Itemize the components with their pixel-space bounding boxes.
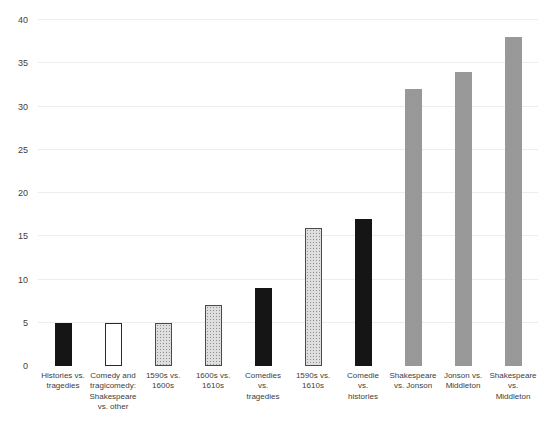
bar-column xyxy=(438,20,488,366)
bar-column xyxy=(388,20,438,366)
x-axis-labels: Histories vs. tragediesComedy and tragic… xyxy=(38,371,538,413)
y-tick-label: 15 xyxy=(18,232,28,241)
bar-column xyxy=(488,20,538,366)
bar-column xyxy=(238,20,288,366)
bar-chart: 4035302520151050 Histories vs. tragedies… xyxy=(0,0,544,425)
bar-dotted xyxy=(155,323,172,366)
y-tick-label: 25 xyxy=(18,145,28,154)
x-axis-category-label: Histories vs. tragedies xyxy=(38,371,88,392)
plot-area xyxy=(38,20,538,366)
x-axis-category-label: 1590s vs. 1610s xyxy=(288,371,338,392)
bar-column xyxy=(38,20,88,366)
x-axis-category-label: Shakespeare vs. Middleton xyxy=(488,371,538,402)
y-tick-label: 30 xyxy=(18,102,28,111)
bar-column xyxy=(138,20,188,366)
bar-gray xyxy=(505,37,522,366)
bar-gray xyxy=(455,72,472,366)
y-tick-label: 5 xyxy=(23,318,28,327)
bar-black xyxy=(255,288,272,366)
bar-dotted xyxy=(305,228,322,366)
bar-gray xyxy=(405,89,422,366)
y-tick-label: 20 xyxy=(18,189,28,198)
x-axis-category-label: 1590s vs. 1600s xyxy=(138,371,188,392)
x-axis-category-label: Comedies vs. tragedies xyxy=(238,371,288,402)
bar-column xyxy=(188,20,238,366)
x-axis-category-label: 1600s vs. 1610s xyxy=(188,371,238,392)
bars-row xyxy=(38,20,538,366)
bar-white xyxy=(105,323,122,366)
y-axis: 4035302520151050 xyxy=(0,20,30,366)
x-axis-category-label: Jonson vs. Middleton xyxy=(438,371,488,392)
y-tick-label: 10 xyxy=(18,275,28,284)
x-axis-category-label: Comedy and tragicomedy: Shakespeare vs. … xyxy=(88,371,138,413)
bar-dotted xyxy=(205,305,222,366)
bar-column xyxy=(338,20,388,366)
bar-black xyxy=(55,323,72,366)
y-tick-label: 35 xyxy=(18,59,28,68)
y-tick-label: 40 xyxy=(18,16,28,25)
bar-column xyxy=(88,20,138,366)
bar-column xyxy=(288,20,338,366)
y-tick-label: 0 xyxy=(23,362,28,371)
x-axis-category-label: Shakespeare vs. Jonson xyxy=(388,371,438,392)
bar-black xyxy=(355,219,372,366)
x-axis-category-label: Comedie vs. histories xyxy=(338,371,388,402)
